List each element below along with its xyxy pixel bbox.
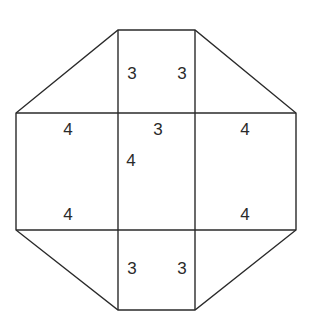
label-top-left-3: 3	[127, 64, 136, 83]
label-left-bottom-4: 4	[63, 205, 72, 224]
label-right-top-4: 4	[240, 120, 249, 139]
label-bottom-right-3: 3	[177, 259, 186, 278]
label-center-left-4: 4	[126, 151, 135, 170]
label-top-right-3: 3	[177, 64, 186, 83]
label-center-top-3: 3	[153, 120, 162, 139]
label-left-top-4: 4	[63, 120, 72, 139]
label-bottom-left-3: 3	[127, 259, 136, 278]
label-right-bottom-4: 4	[240, 205, 249, 224]
outer-octagon	[16, 30, 296, 310]
octagon-net-diagram: 3 3 4 3 4 4 4 4 3 3	[0, 0, 315, 329]
